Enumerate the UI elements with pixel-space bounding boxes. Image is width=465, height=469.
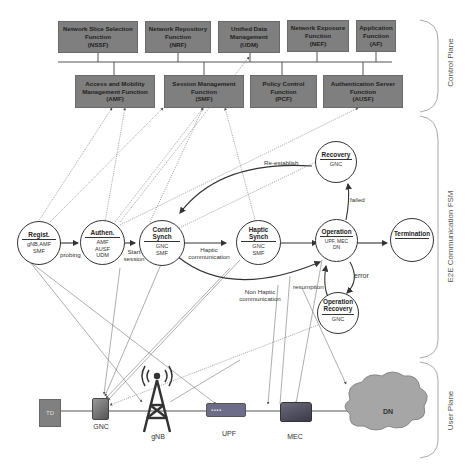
state-operation-recovery: Operation Recovery GNC [317, 292, 359, 334]
gnb-tower-icon [142, 366, 172, 432]
nf-udm: Unified Data Management(UDM) [218, 21, 280, 53]
gnc-label: GNC [88, 423, 114, 430]
nf-pcf: Policy Control Function(PCF) [250, 75, 317, 108]
label-error: error [354, 272, 369, 280]
mec-label: MEC [282, 433, 308, 440]
state-authen: Authen. AMF AUSF UDM [80, 220, 125, 265]
dn-label: DN [373, 408, 403, 415]
fsm-label: E2E Communication FSM [446, 187, 455, 287]
dn-cloud-icon [345, 372, 427, 430]
nf-nef: Network Exposure Function(NEF) [287, 20, 349, 52]
control-plane-label: Control Plane [446, 33, 455, 93]
label-haptic-communication: Haptic communication [186, 246, 232, 260]
state-operation: Operation UPF, MEC DN [315, 219, 358, 262]
state-recovery: Recovery GNC [315, 141, 357, 183]
mec-device-icon [280, 402, 312, 422]
label-failed: failed [350, 196, 365, 203]
nf-af: Application Function(AF) [356, 20, 396, 52]
gnb-label: gNB [145, 433, 171, 440]
label-probing: probing [60, 251, 81, 258]
upf-device-icon: ▪▪▪▪ [206, 403, 246, 417]
nf-amf: Access and Mobility Management Function(… [75, 75, 155, 108]
nf-nrf: Network Repository Function(NRF) [145, 21, 211, 53]
gnc-device-icon [92, 398, 109, 420]
label-re-establish: Re-establish [264, 159, 298, 166]
td-device-icon: TD [39, 399, 61, 427]
label-non-haptic-communication: Non Haptic communication [232, 288, 288, 302]
user-plane-label: User Plane [446, 386, 455, 436]
label-resumption: resumption [293, 283, 324, 290]
state-haptic-synch: Haptic Synch GNC SMF [236, 220, 281, 265]
state-regist: Regist. gNB,AMF SMF [17, 221, 61, 265]
state-termination: Termination [390, 218, 434, 262]
upf-label: UPF [216, 430, 242, 437]
diagram-canvas: Network Slice Selection Function(NSSF) N… [0, 0, 465, 469]
nf-smf: Session Management Function(SMF) [164, 75, 244, 108]
nf-nssf: Network Slice Selection Function(NSSF) [58, 21, 138, 53]
label-start-session: Start session [122, 248, 146, 262]
nf-ausf: Authentication Server Function(AUSF) [323, 75, 403, 108]
